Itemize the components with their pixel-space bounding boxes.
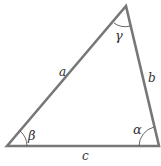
side-label-b: b [148,71,156,85]
side-label-c: c [82,149,89,163]
triangle-diagram: β α γ a b c [0,0,161,166]
angle-arc-gamma [114,23,130,27]
side-label-a: a [59,65,66,79]
angle-arc-beta [20,131,27,146]
angle-label-beta: β [27,128,36,143]
angle-label-alpha: α [133,122,142,137]
angle-label-gamma: γ [115,28,123,43]
